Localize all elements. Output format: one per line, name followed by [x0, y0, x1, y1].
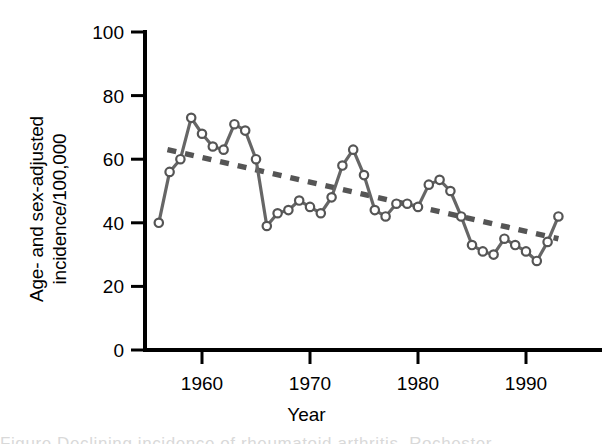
data-point-marker: [489, 250, 497, 258]
data-point-marker: [500, 235, 508, 243]
y-tick-group: 020406080100: [92, 22, 145, 361]
x-tick-label: 1980: [397, 373, 439, 394]
data-point-marker: [165, 168, 173, 176]
x-tick-label: 1970: [289, 373, 331, 394]
y-tick-label: 0: [113, 340, 124, 361]
data-point-marker: [425, 180, 433, 188]
data-series-line: [159, 118, 559, 261]
y-axis-title: Age- and sex-adjustedincidence/100,000: [25, 49, 71, 369]
data-point-marker: [479, 247, 487, 255]
data-point-marker: [230, 120, 238, 128]
data-point-marker: [284, 206, 292, 214]
y-axis-title-line2: incidence/100,000: [49, 134, 70, 285]
data-point-marker: [306, 203, 314, 211]
data-point-marker: [392, 200, 400, 208]
data-point-marker: [241, 126, 249, 134]
y-axis-title-line1: Age- and sex-adjusted: [26, 116, 47, 302]
data-point-marker: [263, 222, 271, 230]
data-point-marker: [360, 171, 368, 179]
data-point-marker: [349, 145, 357, 153]
data-point-marker: [252, 155, 260, 163]
data-point-marker: [219, 145, 227, 153]
trend-dashed-line: [167, 150, 558, 239]
trend-line: [167, 150, 558, 239]
data-point-marker: [176, 155, 184, 163]
x-axis-title: Year: [0, 404, 613, 426]
data-point-marker: [435, 176, 443, 184]
data-point-marker: [533, 257, 541, 265]
data-point-marker: [543, 238, 551, 246]
data-point-marker: [457, 212, 465, 220]
chart-plot: 020406080100 1960197019801990: [0, 0, 613, 400]
data-point-marker: [522, 247, 530, 255]
y-tick-label: 40: [103, 213, 124, 234]
y-tick-label: 80: [103, 86, 124, 107]
data-point-marker: [187, 114, 195, 122]
data-point-marker: [198, 130, 206, 138]
data-point-marker: [446, 187, 454, 195]
data-point-marker: [295, 196, 303, 204]
data-point-marker: [403, 200, 411, 208]
data-point-marker: [155, 219, 163, 227]
x-tick-label: 1960: [181, 373, 223, 394]
y-tick-label: 60: [103, 149, 124, 170]
y-tick-label: 20: [103, 276, 124, 297]
axes-group: 020406080100 1960197019801990: [92, 22, 602, 394]
data-point-marker: [414, 203, 422, 211]
figure-container: Age- and sex-adjustedincidence/100,000 0…: [0, 0, 613, 444]
x-tick-label: 1990: [505, 373, 547, 394]
data-point-marker: [338, 161, 346, 169]
data-point-marker: [468, 241, 476, 249]
figure-caption-cropped: Figure Declining incidence of rheumatoid…: [0, 434, 613, 444]
data-point-marker: [327, 193, 335, 201]
data-point-marker: [209, 142, 217, 150]
data-point-marker: [511, 241, 519, 249]
data-point-marker: [381, 212, 389, 220]
data-point-marker: [317, 209, 325, 217]
data-point-marker: [554, 212, 562, 220]
data-point-marker: [371, 206, 379, 214]
data-point-marker: [273, 209, 281, 217]
x-tick-group: 1960197019801990: [181, 350, 547, 394]
y-tick-label: 100: [92, 22, 124, 43]
incidence-line: [159, 118, 559, 261]
data-point-markers: [155, 114, 563, 265]
